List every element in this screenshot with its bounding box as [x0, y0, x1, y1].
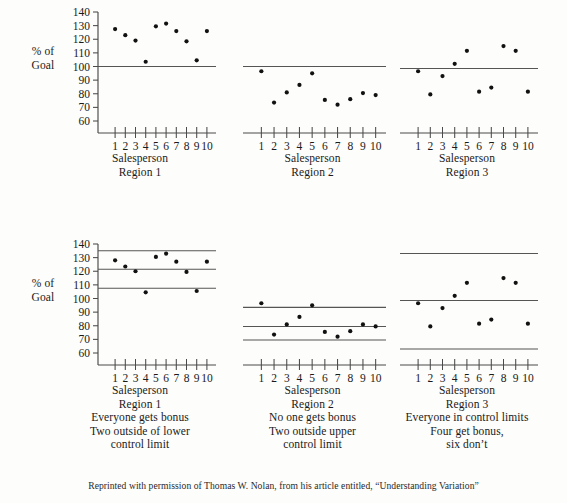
caption-line: No one gets bonus — [235, 411, 390, 425]
svg-text:6: 6 — [476, 140, 482, 152]
plot-area: 12345678910 — [392, 0, 542, 145]
chart-top-region-3: 12345678910 SalespersonRegion 3 — [392, 0, 542, 200]
y-axis-label-line: of — [44, 45, 54, 57]
svg-text:5: 5 — [464, 140, 470, 152]
svg-text:100: 100 — [73, 293, 91, 305]
svg-text:6: 6 — [322, 140, 328, 152]
svg-text:8: 8 — [501, 140, 507, 152]
plot-area: 12345678910 — [235, 0, 390, 145]
caption-xlabel: Salesperson — [60, 384, 220, 398]
chart-row-top: % of Goal 607080901001101201301401234567… — [0, 0, 567, 200]
caption-line: six don’t — [392, 438, 542, 452]
plot-area: 12345678910 — [392, 232, 542, 377]
control-chart-figure: % of Goal 607080901001101201301401234567… — [0, 0, 567, 503]
caption-xlabel: Salesperson — [235, 152, 390, 166]
svg-text:8: 8 — [501, 372, 507, 384]
chart-row-bottom: % of Goal 607080901001101201301401234567… — [0, 232, 567, 432]
chart-top-region-2: 12345678910 SalespersonRegion 2 — [235, 0, 390, 200]
svg-text:2: 2 — [271, 140, 277, 152]
plot-area: 6070809010011012013014012345678910 — [60, 0, 220, 145]
svg-text:10: 10 — [370, 140, 382, 152]
svg-text:3: 3 — [133, 140, 139, 152]
caption-line: Region 3 — [392, 398, 542, 412]
caption-xlabel: Salesperson — [60, 152, 220, 166]
svg-text:6: 6 — [476, 372, 482, 384]
caption-line: Everyone in control limits — [392, 411, 542, 425]
caption-xlabel: Salesperson — [392, 384, 542, 398]
caption-line: Region 3 — [392, 166, 542, 180]
caption-line: control limit — [235, 438, 390, 452]
svg-text:4: 4 — [297, 372, 303, 384]
svg-text:7: 7 — [488, 372, 494, 384]
chart-caption: SalespersonRegion 2 — [235, 152, 390, 179]
svg-text:70: 70 — [79, 101, 91, 113]
svg-text:60: 60 — [79, 115, 91, 127]
chart-caption: SalespersonRegion 2No one gets bonusTwo … — [235, 384, 390, 452]
svg-text:7: 7 — [488, 140, 494, 152]
svg-text:7: 7 — [335, 140, 341, 152]
svg-text:1: 1 — [415, 372, 421, 384]
svg-text:90: 90 — [79, 74, 91, 86]
svg-text:120: 120 — [73, 265, 91, 277]
svg-text:10: 10 — [201, 140, 213, 152]
svg-text:5: 5 — [309, 372, 315, 384]
svg-text:2: 2 — [271, 372, 277, 384]
caption-line: control limit — [60, 438, 220, 452]
svg-text:8: 8 — [184, 140, 190, 152]
y-axis-label-top: % of Goal — [22, 44, 64, 72]
chart-caption: SalespersonRegion 3 — [392, 152, 542, 179]
chart-bottom-region-2: 12345678910 SalespersonRegion 2No one ge… — [235, 232, 390, 432]
svg-text:110: 110 — [73, 279, 90, 291]
plot-area: 6070809010011012013014012345678910 — [60, 232, 220, 377]
svg-text:110: 110 — [73, 47, 90, 59]
svg-text:9: 9 — [513, 140, 519, 152]
svg-text:140: 140 — [73, 238, 91, 250]
svg-text:60: 60 — [79, 347, 91, 359]
svg-text:4: 4 — [143, 140, 149, 152]
svg-text:7: 7 — [173, 140, 179, 152]
svg-text:80: 80 — [79, 88, 91, 100]
svg-text:10: 10 — [522, 140, 534, 152]
svg-text:5: 5 — [153, 372, 159, 384]
svg-text:8: 8 — [184, 372, 190, 384]
svg-text:1: 1 — [258, 140, 264, 152]
svg-text:7: 7 — [173, 372, 179, 384]
caption-line: Region 1 — [60, 398, 220, 412]
svg-text:8: 8 — [347, 140, 353, 152]
y-axis-label-line: % — [32, 45, 42, 57]
chart-caption: SalespersonRegion 1Everyone gets bonusTw… — [60, 384, 220, 452]
chart-bottom-region-1: 6070809010011012013014012345678910 Sales… — [60, 232, 220, 432]
svg-text:7: 7 — [335, 372, 341, 384]
svg-text:10: 10 — [522, 372, 534, 384]
svg-text:3: 3 — [133, 372, 139, 384]
svg-text:5: 5 — [153, 140, 159, 152]
caption-xlabel: Salesperson — [392, 152, 542, 166]
y-axis-label-line: Goal — [32, 291, 55, 303]
plot-area: 12345678910 — [235, 232, 390, 377]
svg-text:100: 100 — [73, 61, 91, 73]
svg-text:8: 8 — [347, 372, 353, 384]
svg-text:5: 5 — [309, 140, 315, 152]
svg-text:4: 4 — [452, 140, 458, 152]
caption-xlabel: Salesperson — [235, 384, 390, 398]
svg-text:9: 9 — [360, 372, 366, 384]
figure-footer-attribution: Reprinted with permission of Thomas W. N… — [0, 480, 567, 491]
chart-bottom-region-3: 12345678910 SalespersonRegion 3Everyone … — [392, 232, 542, 432]
svg-text:130: 130 — [73, 252, 91, 264]
svg-text:2: 2 — [122, 372, 128, 384]
svg-text:3: 3 — [440, 372, 446, 384]
svg-text:1: 1 — [112, 372, 118, 384]
svg-text:4: 4 — [143, 372, 149, 384]
svg-text:9: 9 — [194, 140, 200, 152]
svg-text:140: 140 — [73, 6, 91, 18]
caption-line: Region 1 — [60, 166, 220, 180]
svg-text:9: 9 — [513, 372, 519, 384]
svg-text:5: 5 — [464, 372, 470, 384]
caption-line: Everyone gets bonus — [60, 411, 220, 425]
svg-text:1: 1 — [258, 372, 264, 384]
svg-text:1: 1 — [415, 140, 421, 152]
svg-text:90: 90 — [79, 306, 91, 318]
y-axis-label-line: % — [32, 277, 42, 289]
svg-text:10: 10 — [201, 372, 213, 384]
svg-text:4: 4 — [452, 372, 458, 384]
